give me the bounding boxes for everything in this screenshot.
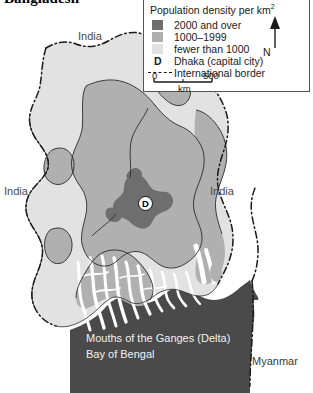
delta-island <box>210 262 222 282</box>
legend-label-density-low: fewer than 1000 <box>174 43 249 55</box>
country-label-india-east: India <box>210 185 234 197</box>
legend-title-superscript: 2 <box>271 3 275 10</box>
country-label-myanmar: Myanmar <box>252 355 298 367</box>
map-figure: Bangladesh India India India Myanmar Mou… <box>0 0 313 393</box>
page-title: Bangladesh <box>4 0 79 7</box>
feature-label-bay-of-bengal: Bay of Bengal <box>86 348 155 360</box>
legend-title: Population density per km2 <box>150 3 275 16</box>
dhaka-capital-marker: D <box>138 196 153 211</box>
scale-bar <box>152 72 232 94</box>
scale-bar-unit-label: km <box>178 83 191 94</box>
country-label-india-north: India <box>78 30 102 42</box>
country-label-india-west: India <box>4 185 28 197</box>
legend-label-dhaka: Dhaka (capital city) <box>174 55 263 67</box>
legend-key-dhaka: D <box>154 55 162 67</box>
legend-swatch-density-low <box>152 44 163 54</box>
legend-swatch-density-high <box>152 20 163 30</box>
scale-bar-max-label: 500 <box>203 70 219 81</box>
feature-label-mouths-of-the-ganges: Mouths of the Ganges (Delta) <box>86 332 230 344</box>
legend-swatch-density-mid <box>152 32 163 42</box>
legend-label-density-high: 2000 and over <box>174 19 241 31</box>
legend-title-text: Population density per km <box>150 4 271 16</box>
dhaka-marker-label: D <box>139 197 152 210</box>
scale-bar-min-label: 0 <box>152 70 157 81</box>
myanmar-landmass <box>250 300 313 393</box>
north-arrow-label: N <box>263 46 271 58</box>
legend-label-density-mid: 1000–1999 <box>174 31 227 43</box>
